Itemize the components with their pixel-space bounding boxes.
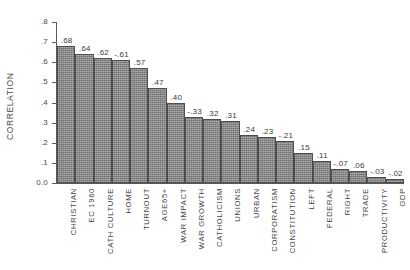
bar-value-label: .68 — [61, 36, 73, 45]
bar[interactable] — [221, 121, 239, 183]
bar-slot: .62 — [94, 18, 112, 183]
x-axis-label-slot: CATHOLICISM — [203, 188, 221, 270]
bar-slot: .24 — [240, 18, 258, 183]
x-axis-label-slot: EC 1960 — [75, 188, 93, 270]
bar[interactable] — [94, 58, 112, 183]
y-axis-tick-label: .2 — [41, 138, 48, 147]
x-axis-label-slot: CONSTITUTION — [276, 188, 294, 270]
bar-value-label: -.03 — [370, 167, 385, 176]
y-axis-label: CORRELATION — [2, 36, 18, 176]
y-axis-tick-label: .1 — [41, 158, 48, 167]
bar-value-label: .15 — [298, 143, 310, 152]
bar-slot: -.03 — [367, 18, 385, 183]
bar-slot: -.21 — [276, 18, 294, 183]
bar-slot: .32 — [203, 18, 221, 183]
bar[interactable] — [258, 137, 276, 183]
x-axis-label-slot: UNIONS — [221, 188, 239, 270]
bar[interactable] — [240, 135, 258, 183]
x-axis-label-slot: URBAN — [240, 188, 258, 270]
x-axis-label-slot: GDP — [386, 188, 404, 270]
bar-value-label: -.07 — [333, 159, 348, 168]
bar-slot: .15 — [294, 18, 312, 183]
bar[interactable] — [313, 161, 331, 183]
bar[interactable] — [276, 141, 294, 183]
bar-value-label: .06 — [353, 161, 365, 170]
bar-slot: -.61 — [112, 18, 130, 183]
bar[interactable] — [112, 60, 130, 183]
x-axis-label-slot: PRODUCTIVITY — [367, 188, 385, 270]
y-axis-tick-label: .7 — [41, 37, 48, 46]
x-axis-label-slot: CORPORATISM — [258, 188, 276, 270]
x-axis-label-slot: TURNOUT — [130, 188, 148, 270]
bar-series: .68.64.62-.61.57.47.40-.33.32.31.24.23-.… — [57, 18, 404, 184]
y-axis-tick-label: .3 — [41, 118, 48, 127]
bar-slot: .57 — [130, 18, 148, 183]
bar-value-label: .23 — [262, 127, 274, 136]
bar-slot: -.33 — [185, 18, 203, 183]
bar[interactable] — [185, 117, 203, 183]
bar-value-label: .24 — [243, 125, 255, 134]
bar-slot: .47 — [148, 18, 166, 183]
bar-slot: -.02 — [386, 18, 404, 183]
y-axis-tick-label: 0.0 — [36, 178, 48, 187]
x-axis-label-slot: CATH CULTURE — [94, 188, 112, 270]
y-axis-tick-label: .4 — [41, 98, 48, 107]
x-axis-label-slot: LEFT — [294, 188, 312, 270]
bar[interactable] — [331, 169, 349, 183]
correlation-bar-chart: CORRELATION 0.0.1.2.3.4.5.6.7.8 .68.64.6… — [0, 0, 410, 270]
bar[interactable] — [75, 54, 93, 183]
bar-value-label: -.21 — [279, 131, 294, 140]
bar[interactable] — [167, 103, 185, 184]
x-axis-label-slot: CHRISTIAN — [57, 188, 75, 270]
bar-value-label: .31 — [225, 111, 237, 120]
bar-slot: -.07 — [331, 18, 349, 183]
bar-value-label: .62 — [97, 48, 109, 57]
bar-value-label: -.02 — [388, 169, 403, 178]
bar[interactable] — [130, 68, 148, 183]
x-axis-label-slot: RIGHT — [331, 188, 349, 270]
y-axis-tick-label: .6 — [41, 57, 48, 66]
x-axis-label-slot: FEDERAL — [313, 188, 331, 270]
y-axis-tick-label: .5 — [41, 77, 48, 86]
x-axis-label-slot: TRADE — [349, 188, 367, 270]
bar-value-label: .11 — [317, 151, 328, 160]
bar[interactable] — [349, 171, 367, 183]
x-axis-label-slot: HOME — [112, 188, 130, 270]
bar[interactable] — [203, 119, 221, 183]
x-axis-label-slot: WAR GROWTH — [185, 188, 203, 270]
plot-area: 0.0.1.2.3.4.5.6.7.8 .68.64.62-.61.57.47.… — [56, 18, 404, 187]
x-axis-label-slot: AGE65+ — [148, 188, 166, 270]
x-axis-label-slot: WAR IMPACT — [167, 188, 185, 270]
bar-slot: .64 — [75, 18, 93, 183]
bar-value-label: -.61 — [114, 50, 129, 59]
bar[interactable] — [386, 179, 404, 183]
bar[interactable] — [148, 88, 166, 183]
bar-value-label: .47 — [152, 78, 164, 87]
bar-slot: .40 — [167, 18, 185, 183]
bar[interactable] — [57, 46, 75, 183]
bar-slot: .68 — [57, 18, 75, 183]
bar-value-label: .32 — [207, 109, 219, 118]
x-axis-tick-labels: CHRISTIANEC 1960CATH CULTUREHOMETURNOUTA… — [57, 188, 404, 270]
bar-slot: .06 — [349, 18, 367, 183]
bar-slot: .11 — [313, 18, 331, 183]
y-axis-tick-label: .8 — [41, 17, 48, 26]
bar[interactable] — [294, 153, 312, 183]
bar-slot: .31 — [221, 18, 239, 183]
bar-slot: .23 — [258, 18, 276, 183]
bar-value-label: .64 — [79, 44, 91, 53]
bar[interactable] — [367, 177, 385, 183]
x-axis-tick-label: GDP — [398, 188, 407, 207]
bar-value-label: .57 — [134, 58, 146, 67]
bar-value-label: .40 — [170, 93, 182, 102]
bar-value-label: -.33 — [187, 107, 202, 116]
